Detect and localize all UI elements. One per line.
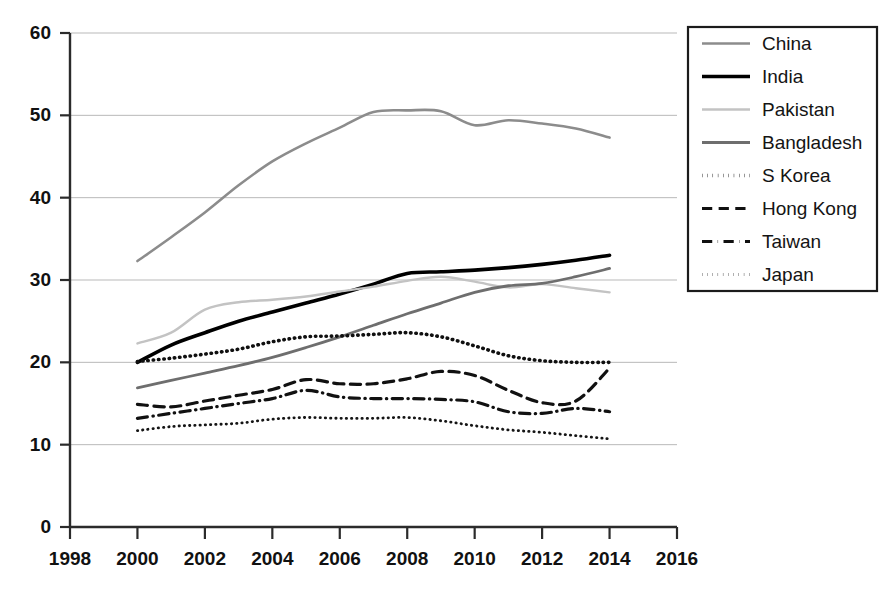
x-tick-marks <box>70 527 677 539</box>
series-line-china <box>137 110 609 261</box>
y-axis-tick-labels: 0102030405060 <box>30 22 51 537</box>
x-tick-label: 2004 <box>251 548 294 569</box>
y-tick-label: 20 <box>30 351 51 372</box>
y-tick-label: 0 <box>40 516 51 537</box>
series-line-hong-kong <box>137 368 609 407</box>
legend-label-s-korea: S Korea <box>762 165 831 186</box>
legend-label-india: India <box>762 66 804 87</box>
line-chart: 0102030405060 19982000200220042006200820… <box>0 0 884 593</box>
y-tick-label: 40 <box>30 187 51 208</box>
x-tick-label: 2010 <box>454 548 496 569</box>
x-tick-label: 2002 <box>184 548 226 569</box>
series-line-taiwan <box>137 390 609 418</box>
x-tick-label: 2000 <box>116 548 158 569</box>
x-tick-label: 2006 <box>319 548 361 569</box>
x-tick-label: 1998 <box>49 548 91 569</box>
series-line-s-korea <box>137 333 609 363</box>
y-tick-label: 60 <box>30 22 51 43</box>
legend-label-japan: Japan <box>762 264 814 285</box>
x-axis-tick-labels: 1998200020022004200620082010201220142016 <box>49 548 698 569</box>
chart-page: 0102030405060 19982000200220042006200820… <box>0 0 884 593</box>
data-series-layer <box>137 110 609 439</box>
legend-label-bangladesh: Bangladesh <box>762 132 862 153</box>
legend-label-pakistan: Pakistan <box>762 99 835 120</box>
series-line-japan <box>137 417 609 438</box>
y-tick-marks <box>60 33 70 527</box>
y-tick-label: 30 <box>30 269 51 290</box>
legend-label-china: China <box>762 33 812 54</box>
x-tick-label: 2014 <box>588 548 631 569</box>
chart-legend: ChinaIndiaPakistanBangladeshS KoreaHong … <box>688 27 877 291</box>
y-tick-label: 50 <box>30 104 51 125</box>
x-tick-label: 2008 <box>386 548 428 569</box>
legend-label-hong-kong: Hong Kong <box>762 198 857 219</box>
x-tick-label: 2012 <box>521 548 563 569</box>
legend-label-taiwan: Taiwan <box>762 231 821 252</box>
x-tick-label: 2016 <box>656 548 698 569</box>
y-tick-label: 10 <box>30 434 51 455</box>
